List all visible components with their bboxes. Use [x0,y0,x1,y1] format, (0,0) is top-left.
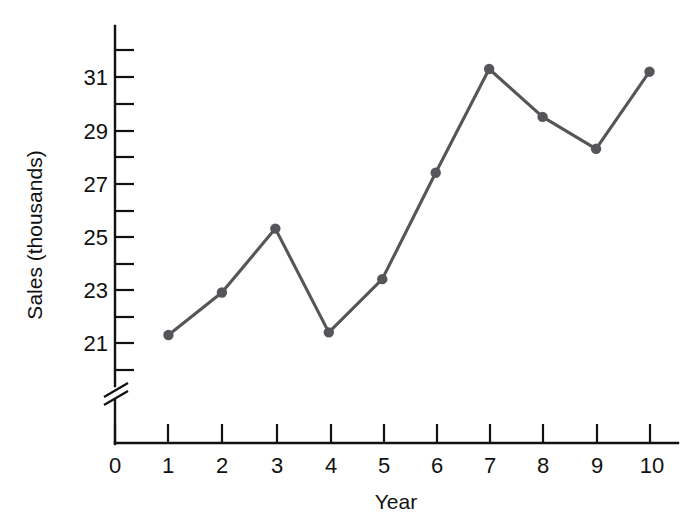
sales-line-series [168,69,649,335]
y-axis-tick-labels: 31 29 27 25 23 21 [84,65,108,356]
x-axis-ticks [115,424,650,443]
y-tick-label-27: 27 [84,172,108,197]
data-point-year-1 [163,330,173,340]
x-tick-label-9: 9 [591,453,603,478]
x-tick-label-8: 8 [537,453,549,478]
y-tick-label-21: 21 [84,331,108,356]
data-point-year-4 [324,327,334,337]
x-tick-label-2: 2 [216,453,228,478]
x-tick-label-4: 4 [325,453,337,478]
x-tick-label-1: 1 [162,453,174,478]
x-tick-label-10: 10 [640,453,664,478]
data-point-year-7 [484,64,494,74]
sales-data-markers [163,64,654,340]
x-tick-label-6: 6 [431,453,443,478]
data-point-year-3 [270,223,280,233]
line-chart: 31 29 27 25 23 21 0 1 2 3 4 [0,0,697,523]
x-tick-label-3: 3 [271,453,283,478]
data-point-year-9 [591,144,601,154]
y-axis-title: Sales (thousands) [23,150,46,319]
chart-canvas: 31 29 27 25 23 21 0 1 2 3 4 [0,0,697,523]
data-point-year-8 [537,112,547,122]
y-tick-label-25: 25 [84,225,108,250]
x-axis-tick-labels: 0 1 2 3 4 5 6 7 8 9 10 [109,453,664,478]
y-tick-label-23: 23 [84,278,108,303]
y-axis-ticks [115,50,134,370]
x-tick-label-5: 5 [378,453,390,478]
data-point-year-5 [377,274,387,284]
y-tick-label-31: 31 [84,65,108,90]
data-point-year-2 [217,287,227,297]
x-axis-title: Year [375,490,417,513]
x-tick-label-0: 0 [109,453,121,478]
y-tick-label-29: 29 [84,119,108,144]
x-tick-label-7: 7 [484,453,496,478]
data-point-year-6 [431,168,441,178]
data-point-year-10 [644,66,654,76]
